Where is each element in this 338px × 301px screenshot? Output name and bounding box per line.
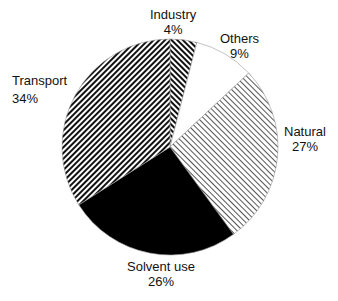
label-natural: Natural 27% [284,124,326,154]
label-solvent: Solvent use 26% [127,259,195,289]
label-industry: Industry 4% [150,7,196,37]
label-transport: Transport 34% [12,73,67,106]
label-others: Others 9% [220,31,259,61]
